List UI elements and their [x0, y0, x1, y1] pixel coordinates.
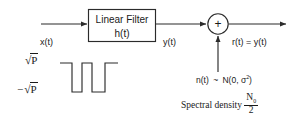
spectral-density-text: Spectral density [181, 100, 242, 110]
spectral-density-numerator: N0 [244, 93, 258, 105]
block-diagram: Linear Filter h(t) + x(t) y(t) r(t) = y(… [0, 0, 293, 123]
amplitude-low-label: −√P [17, 84, 38, 96]
noise-symbol: n(t) [196, 75, 209, 85]
spectral-density-denominator: 2 [244, 105, 258, 116]
tilde-symbol: ~ [211, 75, 220, 85]
output-signal-label: r(t) = y(t) [232, 38, 267, 47]
noise-distribution-expr: N(0, σ [222, 75, 246, 85]
amplitude-high-label: √P [24, 55, 38, 67]
spectral-density-label: Spectral density N0 2 [181, 93, 258, 115]
adder-plus-symbol: + [208, 18, 228, 30]
input-signal-label: x(t) [40, 38, 53, 47]
filter-output-signal-label: y(t) [163, 38, 176, 47]
noise-distribution-label: n(t) ~ N(0, σ2) [196, 75, 252, 84]
spectral-density-fraction: N0 2 [244, 93, 258, 115]
noise-distribution-close: ) [249, 75, 252, 85]
sqrt-radical-high: √P [24, 55, 38, 67]
filter-title-label: Linear Filter [94, 15, 150, 25]
filter-impulse-response-label: h(t) [94, 29, 150, 39]
sqrt-radical-low: √P [23, 84, 37, 96]
square-wave-signal-plot [60, 63, 118, 92]
